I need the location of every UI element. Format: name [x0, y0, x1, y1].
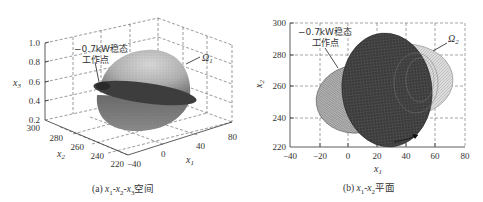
svg-text:0: 0 — [161, 149, 166, 159]
svg-text:80: 80 — [228, 132, 238, 142]
annotation-leader-steady — [95, 62, 99, 82]
svg-text:280: 280 — [50, 133, 64, 143]
y-tick-labels: 300 280 260 240 220 — [27, 123, 125, 169]
y-axis-label-b: x2 — [253, 80, 266, 89]
svg-text:220: 220 — [111, 159, 125, 169]
svg-text:−20: −20 — [313, 151, 328, 161]
svg-text:−40: −40 — [283, 151, 298, 161]
y-axis-label: x2 — [56, 148, 65, 161]
svg-text:60: 60 — [431, 151, 441, 161]
y-tick-labels-b: 300 280 260 240 220 — [273, 18, 287, 152]
svg-text:−40: −40 — [127, 159, 142, 169]
svg-text:0: 0 — [346, 151, 351, 161]
annotation-steady-line2: 工作点 — [82, 54, 109, 65]
svg-text:0.6: 0.6 — [29, 77, 41, 87]
annotation-leader-steady-b — [325, 48, 338, 68]
chart-2d-plot: −0.7kW稳态 工作点 Ω2 300 280 260 240 220 x2 −… — [240, 0, 483, 202]
svg-text:240: 240 — [91, 151, 105, 161]
annotation-steady-line1: −0.7kW稳态 — [74, 43, 128, 54]
z-axis-label: x3 — [12, 77, 21, 90]
svg-text:260: 260 — [273, 81, 287, 91]
svg-text:280: 280 — [273, 50, 287, 60]
svg-text:40: 40 — [402, 151, 412, 161]
svg-text:260: 260 — [71, 142, 85, 152]
svg-text:40: 40 — [196, 141, 206, 151]
svg-text:80: 80 — [461, 151, 471, 161]
svg-text:240: 240 — [273, 113, 287, 123]
x-tick-labels-b: −40 −20 0 20 40 60 80 — [283, 151, 470, 161]
svg-text:0.4: 0.4 — [29, 96, 41, 106]
x-axis-label-b: x1 — [373, 163, 382, 176]
svg-text:1.0: 1.0 — [29, 38, 41, 48]
svg-text:300: 300 — [27, 123, 41, 133]
annotation-omega2: Ω2 — [448, 33, 459, 46]
annotation-leader-omega1 — [186, 57, 200, 64]
x-axis-label: x1 — [185, 154, 194, 167]
svg-text:20: 20 — [373, 151, 383, 161]
z-tick-labels: 1.0 0.8 0.6 0.4 0.2 — [29, 38, 41, 125]
chart-panel-b: −0.7kW稳态 工作点 Ω2 300 280 260 240 220 x2 −… — [240, 0, 483, 202]
caption-a: (a) x1-x2-x3空间 — [92, 181, 154, 197]
svg-text:300: 300 — [273, 18, 287, 28]
chart-panel-a: −0.7kW稳态 工作点 Ω1 1.0 0.8 0.6 0.4 0.2 x3 3… — [0, 0, 240, 202]
svg-text:0.8: 0.8 — [29, 57, 41, 67]
annotation-steady-b-line2: 工作点 — [312, 37, 339, 48]
caption-b: (b) x1-x2平面 — [343, 180, 395, 196]
chart-3d-plot: −0.7kW稳态 工作点 Ω1 1.0 0.8 0.6 0.4 0.2 x3 3… — [0, 0, 240, 202]
annotation-omega1: Ω1 — [202, 52, 213, 65]
annotation-steady-b-line1: −0.7kW稳态 — [298, 26, 352, 37]
